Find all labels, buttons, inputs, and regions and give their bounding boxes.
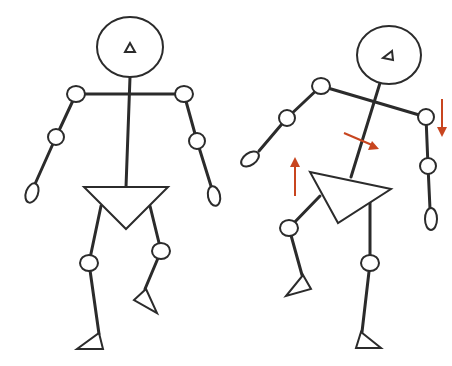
figure-shifted: [238, 26, 447, 348]
arrow-down-icon: [437, 99, 447, 137]
right-shoulder-joint: [175, 86, 193, 102]
left-shoulder-joint: [312, 78, 330, 94]
right-knee-joint: [152, 243, 170, 259]
figure-neutral: [23, 17, 222, 349]
left-knee-joint: [80, 255, 98, 271]
right-shin: [362, 263, 370, 332]
left-hand: [23, 182, 41, 205]
right-hand: [206, 185, 222, 207]
right-foot: [134, 289, 157, 313]
left-shin: [89, 263, 99, 334]
left-shoulder-joint: [67, 86, 85, 102]
right-elbow-joint: [189, 133, 205, 149]
shoulder-bar: [321, 86, 426, 117]
right-foot: [356, 332, 381, 348]
left-foot: [286, 275, 311, 296]
left-foot: [77, 333, 103, 349]
right-elbow-joint: [420, 158, 436, 174]
right-knee-joint: [361, 255, 379, 271]
diagram-canvas: [0, 0, 452, 366]
arrow-up-icon: [290, 157, 300, 196]
left-elbow-joint: [279, 110, 295, 126]
left-knee-joint: [280, 220, 298, 236]
left-elbow-joint: [48, 129, 64, 145]
stick-figure-diagram: Two stick-figure mannequins: neutral sta…: [0, 0, 452, 366]
right-shoulder-joint: [418, 109, 434, 125]
right-hand: [425, 208, 437, 230]
pelvis-triangle: [310, 172, 391, 223]
